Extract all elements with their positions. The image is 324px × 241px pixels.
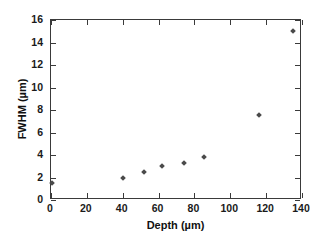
x-axis-tick-label: 0	[47, 202, 53, 214]
y-axis-tick-right	[295, 20, 300, 21]
y-axis-tick	[51, 43, 56, 44]
x-axis-tick-top	[230, 20, 231, 25]
y-axis-tick-label: 0	[37, 193, 43, 205]
y-axis-tick	[51, 88, 56, 89]
y-axis-tick	[51, 110, 56, 111]
data-point	[141, 170, 147, 176]
x-axis-tick-label: 60	[152, 202, 164, 214]
x-axis-tick-label: 100	[221, 202, 239, 214]
y-axis-tick-right	[295, 155, 300, 156]
y-axis-tick	[51, 155, 56, 156]
data-point	[181, 160, 187, 166]
plot-frame	[50, 19, 301, 199]
x-axis-tick	[302, 193, 303, 198]
y-axis-tick-label: 4	[37, 148, 43, 160]
data-point	[290, 28, 296, 34]
y-axis-tick-label: 14	[31, 36, 43, 48]
x-axis-tick-top	[123, 20, 124, 25]
x-axis-tick-label: 120	[256, 202, 274, 214]
x-axis-tick-label: 40	[116, 202, 128, 214]
y-axis-tick	[51, 133, 56, 134]
y-axis-tick-right	[295, 43, 300, 44]
y-axis-tick	[51, 200, 56, 201]
data-point	[256, 112, 262, 118]
x-axis-tick-top	[87, 20, 88, 25]
x-axis-label: Depth (µm)	[50, 219, 301, 231]
y-axis-tick-label: 8	[37, 103, 43, 115]
x-axis-tick	[87, 193, 88, 198]
x-axis-tick-top	[302, 20, 303, 25]
x-axis-tick	[194, 193, 195, 198]
scatter-chart-figure: Depth (µm) FWHM (µm) 0204060801001201400…	[0, 0, 324, 241]
y-axis-tick-label: 16	[31, 13, 43, 25]
y-axis-tick-label: 2	[37, 171, 43, 183]
y-axis-label: FWHM (µm)	[14, 19, 30, 199]
data-point	[159, 163, 165, 169]
plot-area	[51, 20, 300, 198]
x-axis-tick-top	[159, 20, 160, 25]
x-axis-tick	[159, 193, 160, 198]
y-axis-tick	[51, 20, 56, 21]
y-axis-tick-label: 12	[31, 58, 43, 70]
x-axis-tick-label: 20	[80, 202, 92, 214]
y-axis-tick-right	[295, 110, 300, 111]
data-point	[49, 180, 55, 186]
y-axis-tick-right	[295, 88, 300, 89]
x-axis-tick-top	[194, 20, 195, 25]
x-axis-tick	[266, 193, 267, 198]
y-axis-tick	[51, 65, 56, 66]
x-axis-tick-label: 80	[188, 202, 200, 214]
y-axis-tick-right	[295, 200, 300, 201]
y-axis-tick-right	[295, 133, 300, 134]
data-point	[120, 175, 126, 181]
y-axis-tick	[51, 178, 56, 179]
y-axis-tick-label: 10	[31, 81, 43, 93]
y-axis-tick-label: 6	[37, 126, 43, 138]
x-axis-tick-top	[266, 20, 267, 25]
y-axis-tick-right	[295, 65, 300, 66]
data-point	[201, 154, 207, 160]
x-axis-tick	[123, 193, 124, 198]
x-axis-tick	[230, 193, 231, 198]
y-axis-tick-right	[295, 178, 300, 179]
x-axis-tick-label: 140	[292, 202, 310, 214]
x-axis-tick	[51, 193, 52, 198]
